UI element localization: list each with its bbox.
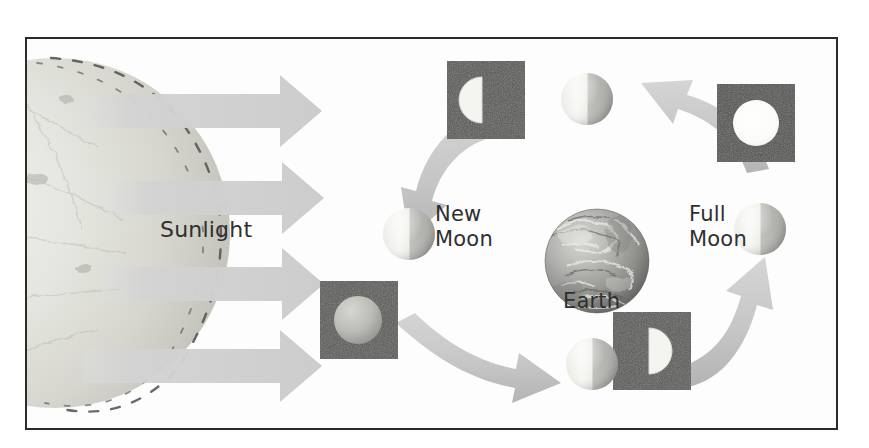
orbit-arrow-bottom-left	[396, 313, 561, 403]
phase-box-top-left	[447, 61, 525, 139]
moon-bottom	[566, 338, 618, 390]
label-sunlight: Sunlight	[160, 217, 252, 242]
figure-frame: Sunlight New Moon Full Moon Earth	[25, 37, 838, 430]
phase-box-bottom-right	[613, 312, 691, 390]
phase-box-top-right	[717, 84, 795, 162]
moon-top	[561, 73, 613, 125]
phase-box-bottom-left	[320, 281, 398, 359]
label-full-moon: Full Moon	[689, 202, 747, 252]
moon-left	[383, 208, 435, 260]
label-earth: Earth	[563, 289, 620, 314]
orbit-arrow-bottom-right	[681, 257, 773, 387]
moon-phases-figure: Sunlight New Moon Full Moon Earth	[0, 0, 869, 448]
label-new-moon: New Moon	[435, 202, 493, 252]
diagram-stage: Sunlight New Moon Full Moon Earth	[27, 39, 836, 428]
